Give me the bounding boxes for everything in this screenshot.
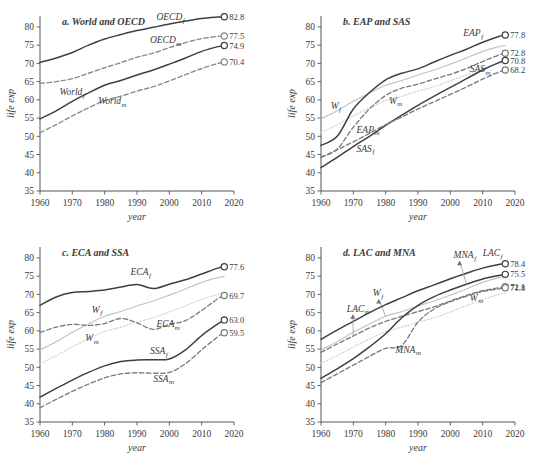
y-tick-label: 70 <box>25 290 35 300</box>
series-label-W_f: Wf <box>92 305 103 318</box>
x-tick-label: 2020 <box>506 429 525 439</box>
x-axis-title: year <box>408 211 427 222</box>
chart-panel-a: 3540455055606570758019601970198019902000… <box>0 0 278 235</box>
y-tick-label: 50 <box>306 363 316 373</box>
y-tick-label: 75 <box>25 40 35 50</box>
x-tick-label: 1980 <box>376 429 395 439</box>
y-tick-label: 80 <box>25 22 35 32</box>
series-line-W_m <box>40 293 224 364</box>
svg-text:Wf: Wf <box>373 288 384 301</box>
x-tick-label: 1990 <box>409 198 428 208</box>
x-axis-title: year <box>127 211 146 222</box>
svg-text:Worldf: Worldf <box>59 87 85 100</box>
y-tick-label: 50 <box>306 132 316 142</box>
y-axis-title: life exp <box>286 320 297 349</box>
leader-arrow-MNA_f <box>457 261 462 265</box>
end-marker-ECA_m <box>221 292 227 298</box>
end-value-LAC_f: 78.4 <box>510 259 526 269</box>
y-axis-title: life exp <box>286 89 297 118</box>
y-tick-label: 40 <box>25 168 35 178</box>
leader-arrow-LAC_m <box>350 315 355 319</box>
end-marker-EAP_f <box>502 32 508 38</box>
x-tick-label: 1990 <box>128 198 147 208</box>
end-marker-OECD_f <box>221 14 227 20</box>
x-tick-label: 2010 <box>192 198 211 208</box>
end-marker-EAP_m <box>502 50 508 56</box>
series-label-SAS_f: SASf <box>357 144 376 157</box>
x-tick-label: 1970 <box>344 198 363 208</box>
y-tick-label: 55 <box>306 113 316 123</box>
series-line-World_f <box>40 46 224 119</box>
series-label-World_f: Worldf <box>59 87 85 100</box>
x-tick-label: 1980 <box>95 429 114 439</box>
y-tick-label: 40 <box>306 168 316 178</box>
y-tick-label: 80 <box>306 22 316 32</box>
series-label-W_m: Wm <box>389 96 402 109</box>
svg-text:Wf: Wf <box>92 305 103 318</box>
series-label-SSA_f: SSAf <box>150 346 169 359</box>
panel-title: c. ECA and SSA <box>62 247 130 258</box>
series-line-EAP_f <box>321 35 505 145</box>
end-value-SSA_f: 63.0 <box>229 315 244 325</box>
x-tick-label: 2010 <box>473 198 492 208</box>
y-tick-label: 65 <box>25 308 35 318</box>
panel-title: b. EAP and SAS <box>343 16 411 27</box>
x-tick-label: 2000 <box>441 198 460 208</box>
x-axis-title: year <box>408 442 427 453</box>
x-tick-label: 1990 <box>128 429 147 439</box>
series-label-W_m: Wm <box>85 333 98 346</box>
y-tick-label: 55 <box>25 113 35 123</box>
series-line-SAS_m <box>321 70 505 158</box>
svg-text:MNAf: MNAf <box>453 250 478 263</box>
y-tick-label: 60 <box>25 95 35 105</box>
series-label-EAP_m: EAPm <box>356 125 380 138</box>
end-marker-MNA_m <box>502 285 508 291</box>
x-tick-label: 1960 <box>312 429 331 439</box>
x-tick-label: 1960 <box>31 429 50 439</box>
end-value-MNA_f: 75.5 <box>510 269 525 279</box>
panel-title: a. World and OECD <box>62 16 145 27</box>
series-label-ECA_f: ECAf <box>130 267 152 280</box>
x-tick-label: 1990 <box>409 429 428 439</box>
series-line-SSA_m <box>40 333 224 408</box>
y-tick-label: 45 <box>25 381 35 391</box>
y-tick-label: 60 <box>306 326 316 336</box>
x-tick-label: 2000 <box>441 429 460 439</box>
y-tick-label: 60 <box>306 95 316 105</box>
y-tick-label: 45 <box>306 150 316 160</box>
end-value-SSA_m: 59.5 <box>229 328 244 338</box>
end-marker-SAS_m <box>502 67 508 73</box>
svg-text:LACm: LACm <box>346 304 370 317</box>
end-marker-World_f <box>221 42 227 48</box>
life-expectancy-figure: 3540455055606570758019601970198019902000… <box>0 0 559 466</box>
end-value-SAS_m: 68.2 <box>510 65 525 75</box>
y-tick-label: 75 <box>306 40 316 50</box>
y-tick-label: 40 <box>25 399 35 409</box>
x-tick-label: 1980 <box>95 198 114 208</box>
end-value-World_m: 70.4 <box>229 57 245 67</box>
x-tick-label: 2010 <box>473 429 492 439</box>
svg-text:LACf: LACf <box>482 248 504 261</box>
x-tick-label: 2020 <box>225 198 244 208</box>
y-tick-label: 75 <box>25 271 35 281</box>
y-tick-label: 70 <box>25 59 35 69</box>
y-tick-label: 70 <box>306 290 316 300</box>
end-marker-LAC_f <box>502 261 508 267</box>
y-tick-label: 35 <box>306 186 316 196</box>
y-tick-label: 65 <box>306 77 316 87</box>
svg-text:ECAf: ECAf <box>130 267 152 280</box>
y-tick-label: 80 <box>25 253 35 263</box>
end-value-ECA_f: 77.6 <box>229 262 244 272</box>
x-tick-label: 2010 <box>192 429 211 439</box>
end-marker-ECA_f <box>221 264 227 270</box>
panel-title: d. LAC and MNA <box>343 247 416 258</box>
series-label-LAC_m: LACm <box>346 304 370 317</box>
end-marker-OECD_m <box>221 33 227 39</box>
x-tick-label: 2020 <box>506 198 525 208</box>
x-tick-label: 2020 <box>225 429 244 439</box>
end-value-World_f: 74.9 <box>229 41 244 51</box>
series-label-MNA_m: MNAm <box>394 345 421 358</box>
series-label-OECD_m: OECDm <box>150 35 181 48</box>
end-marker-SSA_f <box>221 317 227 323</box>
y-tick-label: 55 <box>306 344 316 354</box>
